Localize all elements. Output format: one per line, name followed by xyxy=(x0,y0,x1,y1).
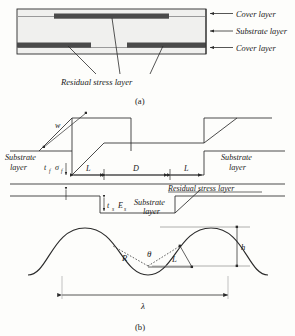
label-substrate-lower-line2: layer xyxy=(143,207,161,216)
label-sub-thickness: t xyxy=(107,201,110,210)
figure-svg: Cover layer Substrate layer Cover layer … xyxy=(0,0,295,336)
panel-b-wave-diagram: h R θ L λ (b) xyxy=(28,227,268,332)
label-L-left: L xyxy=(85,164,91,173)
persp-right-diag xyxy=(204,118,237,143)
residual-band-upper xyxy=(54,14,169,19)
label-substrate-right-line2: layer xyxy=(229,163,247,172)
label-L-right: L xyxy=(183,164,189,173)
lower-box-diag xyxy=(175,190,200,213)
label-substrate-lower-line1: Substrate xyxy=(134,198,165,207)
label-lambda: λ xyxy=(140,301,145,311)
label-substrate-left-line1: Substrate xyxy=(5,153,36,162)
label-residual-stress-layer-b: Residual stress layer xyxy=(167,184,235,193)
residual-band-lower-left xyxy=(17,43,91,48)
label-cover-layer-bottom: Cover layer xyxy=(236,44,277,53)
radius-R-line xyxy=(113,246,148,266)
label-sub-modulus-sub: s xyxy=(124,206,126,212)
label-L-arc: L xyxy=(171,254,177,264)
triangle-side-line xyxy=(180,246,192,267)
label-w: w xyxy=(55,121,61,130)
label-h: h xyxy=(241,242,245,252)
label-film-stress: σ xyxy=(55,163,60,172)
caption-b: (b) xyxy=(135,322,145,332)
dimension-w-line xyxy=(44,113,86,147)
panel-a: Cover layer Substrate layer Cover layer … xyxy=(17,9,288,106)
label-substrate-right-line1: Substrate xyxy=(221,153,252,162)
residual-band-lower-right xyxy=(127,43,206,48)
label-film-thickness-sub: f xyxy=(49,168,52,174)
label-theta: θ xyxy=(147,249,152,259)
panel-b-top-diagram: w Substrate layer t f σ f L D L Substrat… xyxy=(5,113,285,216)
label-film-stress-sub: f xyxy=(61,168,64,174)
label-cover-layer-top: Cover layer xyxy=(236,10,277,19)
label-sub-modulus: E xyxy=(117,201,123,210)
figure-container: Cover layer Substrate layer Cover layer … xyxy=(0,0,295,336)
label-residual-stress-layer-a: Residual stress layer xyxy=(60,77,133,87)
label-substrate-left-line2: layer xyxy=(10,163,28,172)
label-sub-thickness-sub: s xyxy=(112,206,114,212)
label-D: D xyxy=(132,164,139,173)
caption-a: (a) xyxy=(135,96,145,106)
label-substrate-layer: Substrate layer xyxy=(236,27,288,36)
label-film-thickness: t xyxy=(44,163,47,172)
label-R: R xyxy=(121,253,128,263)
